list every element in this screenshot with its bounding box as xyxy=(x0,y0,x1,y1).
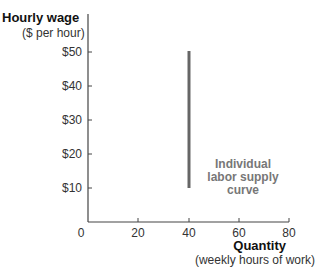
y-tick-30: $30 xyxy=(42,113,82,127)
y-tick-10: $10 xyxy=(42,181,82,195)
annotation-line-3: curve xyxy=(198,184,288,197)
x-axis-subtitle: (weekly hours of work) xyxy=(195,253,315,267)
y-tick-20: $20 xyxy=(42,147,82,161)
x-tick-20: 20 xyxy=(123,226,153,240)
y-tick-40: $40 xyxy=(42,79,82,93)
x-tick-40: 40 xyxy=(174,226,204,240)
chart-plot xyxy=(0,0,321,277)
x-tick-0: 0 xyxy=(66,226,96,240)
curve-annotation: Individual labor supply curve xyxy=(198,158,288,197)
x-axis-title: Quantity xyxy=(233,238,286,253)
y-tick-50: $50 xyxy=(42,45,82,59)
